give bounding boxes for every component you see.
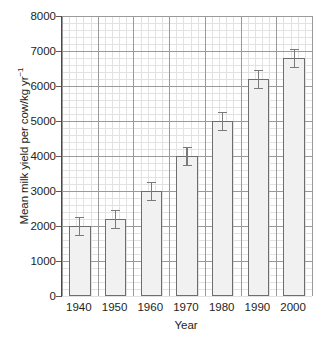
error-bar-cap-lower xyxy=(75,235,84,236)
error-bar-cap-lower xyxy=(147,200,156,201)
x-axis-tick-label: 1980 xyxy=(204,300,240,314)
x-axis-title: Year xyxy=(61,318,311,332)
y-axis-tick-label: 3000 xyxy=(16,186,56,196)
bar xyxy=(283,58,304,296)
error-bar-cap-lower xyxy=(218,130,227,131)
error-bar-cap-upper xyxy=(290,49,299,50)
error-bar-line xyxy=(151,182,152,200)
error-bar-line xyxy=(186,147,187,165)
x-axis-tick-label: 1940 xyxy=(61,300,97,314)
error-bar-cap-lower xyxy=(254,88,263,89)
y-axis-tick-label: 1000 xyxy=(16,256,56,266)
y-axis-tick-label: 6000 xyxy=(16,81,56,91)
bar xyxy=(176,156,197,296)
bar xyxy=(105,219,126,296)
x-axis-tick-label: 1960 xyxy=(132,300,168,314)
error-bar-cap-lower xyxy=(290,67,299,68)
x-axis-tick-label: 1990 xyxy=(240,300,276,314)
gridline-vertical xyxy=(312,16,313,296)
bar-series xyxy=(62,16,312,296)
y-axis-tick-label: 4000 xyxy=(16,151,56,161)
error-bar-line xyxy=(115,210,116,228)
y-axis-tick-label: 2000 xyxy=(16,221,56,231)
error-bar-line xyxy=(294,49,295,67)
error-bar-cap-upper xyxy=(254,70,263,71)
bar xyxy=(141,191,162,296)
error-bar-line xyxy=(222,112,223,130)
error-bar-cap-lower xyxy=(183,165,192,166)
y-axis-tick-label: 0 xyxy=(16,291,56,301)
error-bar-cap-upper xyxy=(111,210,120,211)
x-axis-tick-labels: 1940195019601970198019902000 xyxy=(61,300,311,316)
error-bar-line xyxy=(79,217,80,235)
error-bar-cap-lower xyxy=(111,228,120,229)
error-bar-cap-upper xyxy=(147,182,156,183)
error-bar-cap-upper xyxy=(218,112,227,113)
error-bar-cap-upper xyxy=(75,217,84,218)
bar xyxy=(69,226,90,296)
x-axis-tick-label: 1950 xyxy=(97,300,133,314)
y-axis-tick-labels: 010002000300040005000600070008000 xyxy=(12,0,56,338)
y-axis-tick-label: 7000 xyxy=(16,46,56,56)
y-axis-tick-label: 8000 xyxy=(16,11,56,21)
bar-chart-figure: Mean milk yield per cow/kg yr−1 01000200… xyxy=(0,0,322,338)
gridline-horizontal xyxy=(62,296,312,297)
bar xyxy=(248,79,269,296)
x-axis-tick-label: 1970 xyxy=(168,300,204,314)
x-axis-tick-label: 2000 xyxy=(275,300,311,314)
error-bar-cap-upper xyxy=(183,147,192,148)
plot-area xyxy=(61,16,312,297)
bar xyxy=(212,121,233,296)
error-bar-line xyxy=(258,70,259,88)
y-axis-tick-label: 5000 xyxy=(16,116,56,126)
